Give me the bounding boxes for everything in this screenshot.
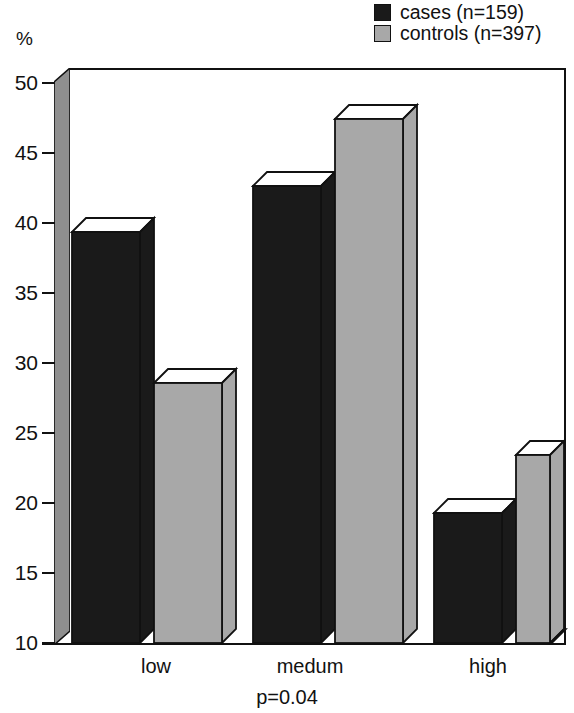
x-category-label-medum: medum [255,655,365,678]
bar-chart-figure: cases (n=159) controls (n=397) % 50 45 4… [0,0,574,713]
x-category-label-low: low [106,655,206,678]
plot-area: 50 45 40 35 30 25 20 15 10 [0,0,574,713]
bar-high-controls-shape [0,0,574,713]
chart-caption-pvalue: p=0.04 [0,686,574,709]
x-category-label-high: high [438,655,538,678]
floor-corner-3d [548,627,568,645]
